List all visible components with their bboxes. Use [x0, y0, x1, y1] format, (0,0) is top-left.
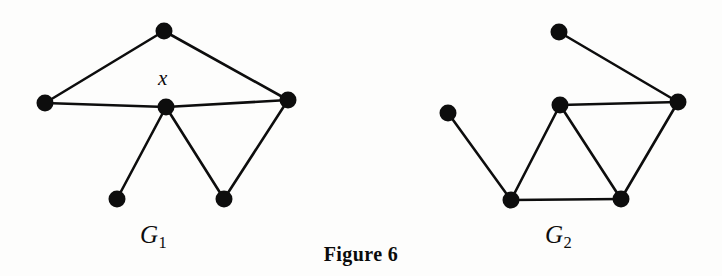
graph-edge — [166, 100, 288, 107]
graph-vertex-bottom-left-vertex — [109, 191, 126, 208]
graph-vertex-center-vertex-x — [158, 99, 175, 116]
graph-vertex-bottom-right-vertex — [216, 191, 233, 208]
graph-g2-edges — [448, 32, 678, 200]
graph-edge — [560, 102, 678, 105]
graph-g1 — [37, 23, 297, 208]
graph-vertex-bottom-right-vertex — [613, 191, 630, 208]
graph-vertex-left-pendant-vertex — [440, 105, 457, 122]
graph-edge — [45, 31, 164, 103]
graph-vertex-top-vertex — [551, 24, 568, 41]
graph-vertex-right-vertex — [670, 94, 687, 111]
graph-edge — [559, 32, 678, 102]
graph-g2 — [440, 24, 687, 209]
figure-container: x G1 G2 Figure 6 — [0, 0, 722, 276]
graph-edge — [621, 102, 678, 199]
graph-edge — [224, 100, 288, 199]
graph-edge — [164, 31, 288, 100]
graph-vertex-top-vertex — [156, 23, 173, 40]
graph-vertex-right-vertex — [280, 92, 297, 109]
graph-edge — [117, 107, 166, 199]
graph-vertex-middle-vertex — [552, 97, 569, 114]
graph-vertex-left-vertex — [37, 95, 54, 112]
figure-caption: Figure 6 — [0, 243, 722, 266]
graph-g2-vertices — [440, 24, 687, 209]
graph-edge — [511, 105, 560, 200]
graph-edge — [166, 107, 224, 199]
graph-edge — [511, 199, 621, 200]
graph-drawing-canvas — [0, 0, 722, 276]
graph-vertex-bottom-left-vertex — [503, 192, 520, 209]
graph-edge — [560, 105, 621, 199]
graph-g1-vertices — [37, 23, 297, 208]
graph-edge — [448, 113, 511, 200]
graph-edge — [45, 103, 166, 107]
